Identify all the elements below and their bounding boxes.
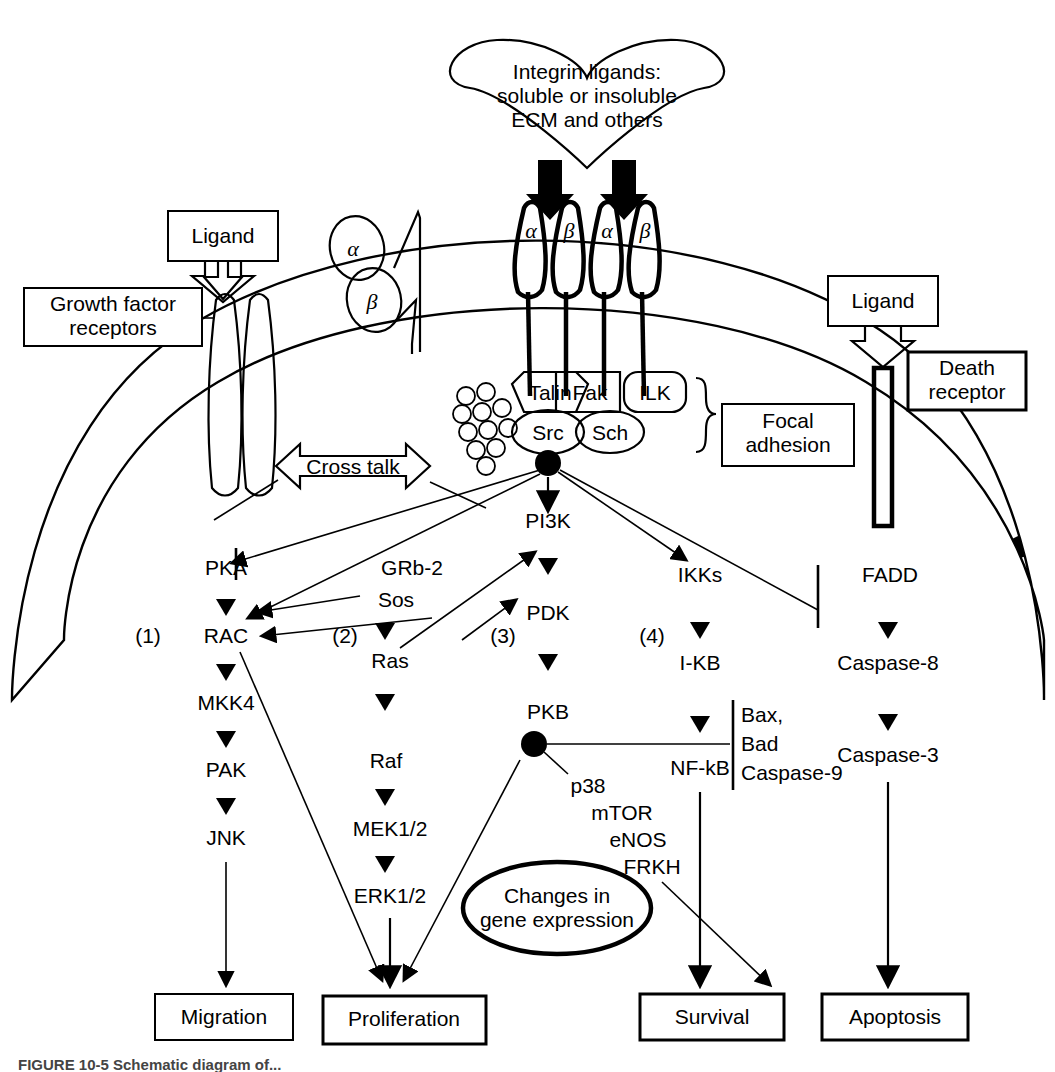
arrow-src-to-pka bbox=[232, 470, 540, 563]
tri-mkk4-pak bbox=[216, 731, 236, 748]
outcome-label-proliferation: Proliferation bbox=[348, 1007, 460, 1030]
tri-raf-mek bbox=[375, 789, 395, 806]
tri-pak-jnk bbox=[216, 798, 236, 815]
arrow-frkh-to-survival bbox=[662, 882, 770, 985]
figure-canvas: Integrin ligands: soluble or insoluble E… bbox=[0, 0, 1055, 1072]
tri-mek-erk bbox=[375, 856, 395, 873]
arrow-sos-to-rac bbox=[258, 596, 360, 612]
apoptotic-target-bad: Bad bbox=[741, 732, 778, 755]
death-node-caspase3: Caspase-3 bbox=[837, 743, 939, 766]
integrin-ligand-callout: Integrin ligands: soluble or insoluble E… bbox=[450, 40, 724, 168]
outcome-apoptosis: Apoptosis bbox=[822, 994, 968, 1040]
apoptotic-target-bax: Bax, bbox=[741, 703, 783, 726]
pkb-target-frkh: FRKH bbox=[623, 855, 680, 878]
gene-expression-line-1: Changes in bbox=[504, 884, 610, 907]
pathway-2-node-grb2: GRb-2 bbox=[381, 556, 443, 579]
tri-sos-ras bbox=[375, 623, 395, 640]
pathway-1: (1) PKA RAC MKK4 PAK JNK bbox=[135, 556, 255, 985]
pathway-2: (2) GRb-2 Sos Ras Raf MEK1/2 ERK1/2 bbox=[332, 556, 443, 985]
integrin-beta-2: β bbox=[639, 218, 651, 243]
arrow-src-to-ikks bbox=[558, 472, 686, 560]
pathway-1-number: (1) bbox=[135, 624, 161, 647]
apoptotic-target-caspase9: Caspase-9 bbox=[741, 761, 843, 784]
pathway-3-node-pdk: PDK bbox=[526, 601, 569, 624]
gene-expression-group: Changes in gene expression bbox=[463, 862, 651, 954]
pathway-3-number: (3) bbox=[490, 624, 516, 647]
pathway-4-node-nfkb: NF-kB bbox=[670, 756, 730, 779]
growth-factor-receptor-line-1: Growth factor bbox=[50, 292, 176, 315]
outcome-label-migration: Migration bbox=[181, 1005, 267, 1028]
line-pkb-to-targets bbox=[544, 752, 568, 774]
pathway-2-node-mek: MEK1/2 bbox=[353, 817, 428, 840]
ilk-label: ILK bbox=[639, 381, 671, 404]
outcome-migration: Migration bbox=[155, 994, 293, 1040]
arrow-rac-to-proliferation bbox=[240, 652, 382, 980]
pathway-1-node-pka: PKA bbox=[205, 556, 247, 579]
sch-label: Sch bbox=[592, 421, 628, 444]
pathway-3-node-pkb: PKB bbox=[527, 700, 569, 723]
pkb-target-enos: eNOS bbox=[609, 828, 666, 851]
gene-expression-line-2: gene expression bbox=[480, 908, 634, 931]
pathway-2-node-sos: Sos bbox=[378, 588, 414, 611]
integrin-alpha-1: α bbox=[525, 218, 537, 243]
pathway-2-node-ras: Ras bbox=[371, 649, 408, 672]
integrin-ligand-line-2: soluble or insoluble bbox=[497, 84, 677, 107]
src-signaling-hub bbox=[535, 450, 561, 476]
cross-talk-label: Cross talk bbox=[306, 455, 400, 478]
integrin-ligand-line-1: Integrin ligands: bbox=[513, 60, 661, 83]
line-src-to-fadd-inhibit bbox=[560, 470, 818, 610]
apoptotic-targets-group: Bax, Bad Caspase-9 bbox=[741, 703, 843, 784]
figure-caption: FIGURE 10-5 Schematic diagram of... bbox=[18, 1056, 281, 1072]
outcome-label-survival: Survival bbox=[675, 1005, 750, 1028]
pathway-4-node-ikks: IKKs bbox=[678, 563, 722, 586]
tri-pka-rac bbox=[216, 599, 236, 616]
death-receptor-line-1: Death bbox=[939, 356, 995, 379]
src-label: Src bbox=[532, 421, 564, 444]
growth-factor-ligand-label: Ligand bbox=[191, 224, 254, 247]
pathway-2-node-raf: Raf bbox=[370, 749, 403, 772]
death-pathway: FADD Caspase-8 Caspase-3 bbox=[837, 563, 939, 985]
outcome-label-apoptosis: Apoptosis bbox=[849, 1005, 941, 1028]
fak-label: Fak bbox=[572, 381, 608, 404]
cross-talk-group: Cross talk bbox=[276, 444, 430, 488]
pkb-target-mtor: mTOR bbox=[591, 801, 652, 824]
pathway-diagram-svg: Integrin ligands: soluble or insoluble E… bbox=[0, 0, 1055, 1072]
tri-pi3k-pdk bbox=[538, 558, 558, 575]
talin-label: Talin bbox=[528, 381, 571, 404]
unbound-integrin-beta: β bbox=[366, 289, 378, 314]
figure-caption-text: FIGURE 10-5 Schematic diagram of... bbox=[18, 1056, 281, 1072]
pkb-target-p38: p38 bbox=[570, 774, 605, 797]
integrin-ligand-line-3: ECM and others bbox=[511, 108, 663, 131]
integrin-beta-1: β bbox=[563, 218, 575, 243]
unbound-integrin-alpha: α bbox=[347, 236, 359, 261]
outcome-boxes: Migration Proliferation Survival Apoptos… bbox=[155, 994, 968, 1044]
death-node-caspase8: Caspase-8 bbox=[837, 651, 939, 674]
focal-adhesion-complex: Talin Fak ILK Src Sch Focal adhesion bbox=[512, 372, 854, 466]
pathway-2-number: (2) bbox=[332, 624, 358, 647]
pathway-2-node-erk: ERK1/2 bbox=[354, 884, 426, 907]
pathway-3-node-pi3k: PI3K bbox=[525, 509, 571, 532]
pathway-1-node-jnk: JNK bbox=[206, 826, 246, 849]
death-node-fadd: FADD bbox=[862, 563, 918, 586]
tri-fadd-casp8 bbox=[878, 622, 898, 639]
tri-ras-raf bbox=[375, 694, 395, 711]
tri-ikks-ikb bbox=[690, 622, 710, 639]
death-ligand-label: Ligand bbox=[851, 289, 914, 312]
tri-casp8-casp3 bbox=[878, 714, 898, 731]
focal-adhesion-brace bbox=[696, 378, 716, 452]
death-receptor-label-group: Death receptor bbox=[908, 352, 1026, 410]
growth-factor-receptor-line-2: receptors bbox=[69, 316, 157, 339]
pathway-4: (4) IKKs I-KB NF-kB bbox=[639, 563, 730, 985]
pathway-4-number: (4) bbox=[639, 624, 665, 647]
integrin-alpha-2: α bbox=[601, 218, 613, 243]
focal-adhesion-line-2: adhesion bbox=[745, 433, 830, 456]
pathway-1-node-mkk4: MKK4 bbox=[197, 691, 255, 714]
death-receptor-line-2: receptor bbox=[928, 380, 1005, 403]
outcome-proliferation: Proliferation bbox=[323, 996, 486, 1044]
focal-adhesion-line-1: Focal bbox=[762, 409, 813, 432]
pathway-4-node-ikb: I-KB bbox=[680, 651, 721, 674]
pathway-1-node-pak: PAK bbox=[206, 758, 246, 781]
tri-ikb-nfkb bbox=[690, 716, 710, 733]
vesicle-cluster bbox=[453, 383, 517, 475]
growth-factor-receptor-label-group: Growth factor receptors bbox=[24, 288, 214, 346]
